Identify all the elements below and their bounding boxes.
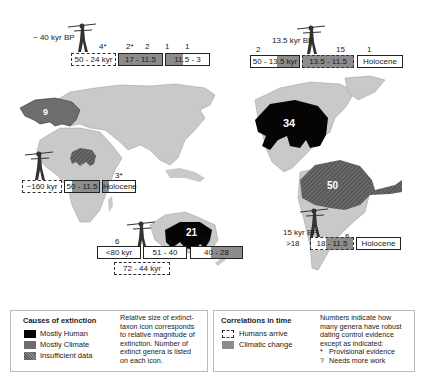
timeline-box: 50 - 24 kyr	[71, 53, 116, 66]
legend-correlations: Correlations in time Humans arrive Clima…	[213, 310, 415, 372]
timeline-box: 50 - 11.5	[64, 180, 100, 193]
timeline-box: 17 - 11.5	[118, 53, 163, 66]
count: 6	[115, 237, 119, 246]
timeline-box: 13.5 - 11.5	[302, 55, 354, 68]
timeline-box: Holocene	[102, 180, 136, 193]
legend-item: Mostly Human	[40, 329, 88, 338]
timeline-box: Holocene	[356, 237, 401, 250]
timeline-box: ~160 kyr	[22, 180, 62, 193]
eurasia-icon-count: 9	[43, 107, 48, 117]
timeline-box: 50 - 13.5 kyr	[250, 55, 300, 68]
swatch-mostly-human	[24, 330, 36, 338]
south-america-arrival: 15 kyr BP	[283, 228, 318, 237]
count: 1?	[201, 237, 210, 246]
swatch-insufficient-data	[24, 352, 36, 360]
eurasia-arrival: ~ 40 kyr BP	[33, 33, 75, 42]
count: 1	[185, 42, 189, 51]
count: 3*	[115, 171, 123, 180]
swatch-climatic-change	[222, 341, 234, 349]
count: 2*	[126, 42, 134, 51]
swatch-mostly-climate	[24, 341, 36, 349]
north-america-arrival: 13.5 kyr BP	[272, 36, 313, 45]
count: 1	[367, 45, 371, 54]
australia-icon-count: 21	[186, 227, 197, 238]
human-figure-icon	[25, 150, 55, 180]
timeline-box: Holocene	[357, 55, 403, 68]
count: 2	[145, 42, 149, 51]
count: 2	[256, 45, 260, 54]
size-note: Relative size of extinct-taxon icon corr…	[120, 314, 195, 366]
legend-title: Causes of extinction	[23, 316, 96, 325]
timeline-box: 72 - 44 kyr	[114, 262, 170, 275]
legend-item: Mostly Climate	[40, 340, 89, 349]
legend-title: Correlations in time	[221, 316, 291, 325]
count: >18	[286, 239, 300, 248]
count: 4*	[99, 42, 107, 51]
timeline-box: <80 kyr	[97, 246, 141, 259]
count: 6	[168, 237, 172, 246]
timeline-box: 40 - 28	[190, 246, 243, 259]
legend-item: Climatic change	[239, 340, 292, 349]
count: 1	[165, 42, 169, 51]
legend-item: Insufficient data	[40, 351, 92, 360]
timeline-box: 51 - 40	[143, 246, 187, 259]
timeline-box: 11.5 - 3	[165, 53, 210, 66]
timeline-box: 18 - 11.5	[310, 237, 354, 250]
glyptodon-icon	[300, 160, 402, 210]
world-map	[0, 0, 427, 305]
count: 15	[336, 45, 345, 54]
swatch-humans-arrive	[222, 330, 234, 338]
numbers-note: Numbers indicate howmany genera have rob…	[320, 314, 402, 366]
south-america-icon-count: 50	[327, 180, 338, 191]
legend-item: Humans arrive	[239, 329, 288, 338]
north-america-icon-count: 34	[283, 117, 295, 129]
legend-causes: Causes of extinction Mostly Human Mostly…	[10, 310, 208, 372]
rhino-icon	[20, 98, 80, 126]
